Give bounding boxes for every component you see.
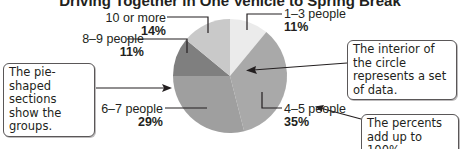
label-1-3-people-name: 1–3 people <box>284 7 346 21</box>
callout-interior: The interior of the circle represents a … <box>347 40 457 100</box>
label-4-5-people-pct: 35% <box>284 116 346 129</box>
label-6-7-people-name: 6–7 people <box>101 102 163 116</box>
label-6-7-people-pct: 29% <box>86 116 163 129</box>
label-1-3-people: 1–3 people 11% <box>284 8 346 34</box>
label-6-7-people: 6–7 people 29% <box>86 103 163 129</box>
label-10-or-more-name: 10 or more <box>106 11 166 25</box>
label-8-9-people-pct: 11% <box>68 46 144 59</box>
label-1-3-people-pct: 11% <box>284 21 346 34</box>
label-8-9-people: 8–9 people 11% <box>68 33 144 59</box>
label-4-5-people-name: 4–5 people <box>284 102 346 116</box>
label-4-5-people: 4–5 people 35% <box>284 103 346 129</box>
callout-percents: The percents add up to 100%. <box>361 114 459 149</box>
callout-groups: The pie-shaped sections show the groups. <box>3 63 95 137</box>
pie-slices <box>173 19 287 133</box>
label-8-9-people-name: 8–9 people <box>82 32 144 46</box>
